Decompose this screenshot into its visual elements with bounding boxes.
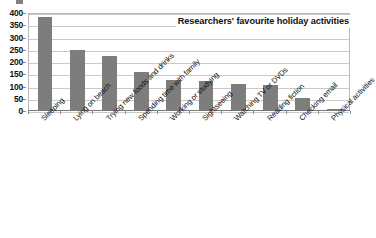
bar bbox=[263, 85, 278, 110]
x-axis-tick bbox=[92, 111, 93, 114]
y-axis-tick bbox=[23, 25, 26, 26]
y-axis-tick-label: 50 bbox=[14, 95, 23, 104]
scan-artifact bbox=[16, 0, 23, 4]
x-axis-tick bbox=[60, 111, 61, 114]
bar bbox=[231, 84, 246, 110]
y-axis-tick bbox=[23, 62, 26, 63]
y-axis: 400350300250200150100500 bbox=[0, 13, 26, 111]
bar bbox=[199, 81, 214, 110]
bar bbox=[295, 98, 310, 110]
y-axis-tick-label: 400 bbox=[9, 9, 23, 18]
x-axis-tick bbox=[253, 111, 254, 114]
y-axis-tick bbox=[23, 99, 26, 100]
bar bbox=[38, 17, 53, 110]
x-axis-tick bbox=[28, 111, 29, 114]
x-axis-tick bbox=[350, 111, 351, 114]
x-axis-ticks bbox=[28, 111, 350, 115]
x-axis-tick bbox=[125, 111, 126, 114]
y-axis-tick-label: 100 bbox=[9, 82, 23, 91]
chart-title: Researchers' favourite holiday activitie… bbox=[176, 15, 351, 28]
x-axis-tick bbox=[221, 111, 222, 114]
x-axis-tick bbox=[157, 111, 158, 114]
y-axis-tick bbox=[23, 50, 26, 51]
y-axis-tick-label: 150 bbox=[9, 70, 23, 79]
y-axis-tick bbox=[23, 38, 26, 39]
bar bbox=[134, 72, 149, 110]
y-axis-tick bbox=[23, 87, 26, 88]
y-axis-tick-label: 300 bbox=[9, 33, 23, 42]
y-axis-tick bbox=[23, 74, 26, 75]
x-axis-tick bbox=[286, 111, 287, 114]
bar bbox=[166, 80, 181, 110]
y-axis-tick-label: 250 bbox=[9, 46, 23, 55]
bar bbox=[70, 50, 85, 110]
y-axis-tick bbox=[23, 13, 26, 14]
bar bbox=[102, 56, 117, 110]
x-axis-tick bbox=[318, 111, 319, 114]
y-axis-tick-label: 350 bbox=[9, 21, 23, 30]
bars-layer bbox=[29, 14, 349, 110]
y-axis-tick-label: 200 bbox=[9, 58, 23, 67]
y-axis-tick bbox=[23, 111, 26, 112]
x-axis-tick bbox=[189, 111, 190, 114]
